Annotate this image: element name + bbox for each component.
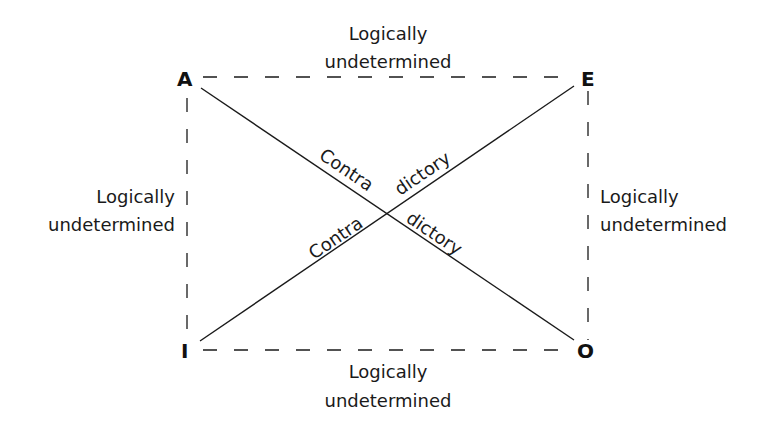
vertex-i-label: I	[181, 339, 188, 363]
bottom-edge-label-line1: Logically	[349, 361, 428, 382]
top-edge-label-line1: Logically	[349, 23, 428, 44]
diagonal-i-e-label-part1: Contra	[304, 212, 366, 263]
vertex-e-label: E	[581, 67, 595, 91]
right-edge-label-line1: Logically	[600, 186, 679, 207]
diagonal-a-o-label-part1: Contra	[316, 144, 378, 195]
bottom-edge-label-line2: undetermined	[325, 390, 452, 411]
top-edge-label-line2: undetermined	[325, 51, 452, 72]
right-edge-label-line2: undetermined	[600, 214, 727, 235]
diagonal-a-o-label-part2: dictory	[403, 207, 467, 260]
left-edge-label-line2: undetermined	[48, 214, 175, 235]
left-edge-label-line1: Logically	[96, 186, 175, 207]
vertex-o-label: O	[577, 339, 594, 363]
diagonal-i-e-label-part2: dictory	[390, 147, 454, 200]
vertex-a-label: A	[177, 67, 193, 91]
square-of-opposition-diagram: A E I O Logically undetermined Logically…	[0, 0, 771, 422]
